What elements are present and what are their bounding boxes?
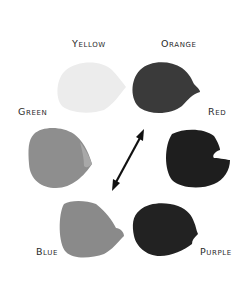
orange-swatch <box>133 62 201 113</box>
label-yellow: Yellow <box>72 39 106 49</box>
double-headed-arrow-icon <box>112 129 144 191</box>
blue-swatch <box>60 201 124 258</box>
color-wheel-diagram <box>0 0 248 286</box>
red-swatch <box>166 130 230 188</box>
label-red: Red <box>208 107 226 117</box>
yellow-swatch <box>57 63 126 113</box>
label-green: Green <box>18 107 47 117</box>
label-blue: Blue <box>36 247 58 257</box>
green-swatch <box>29 128 92 188</box>
purple-swatch <box>133 203 198 256</box>
label-orange: Orange <box>161 39 197 49</box>
label-purple: Purple <box>200 247 232 257</box>
